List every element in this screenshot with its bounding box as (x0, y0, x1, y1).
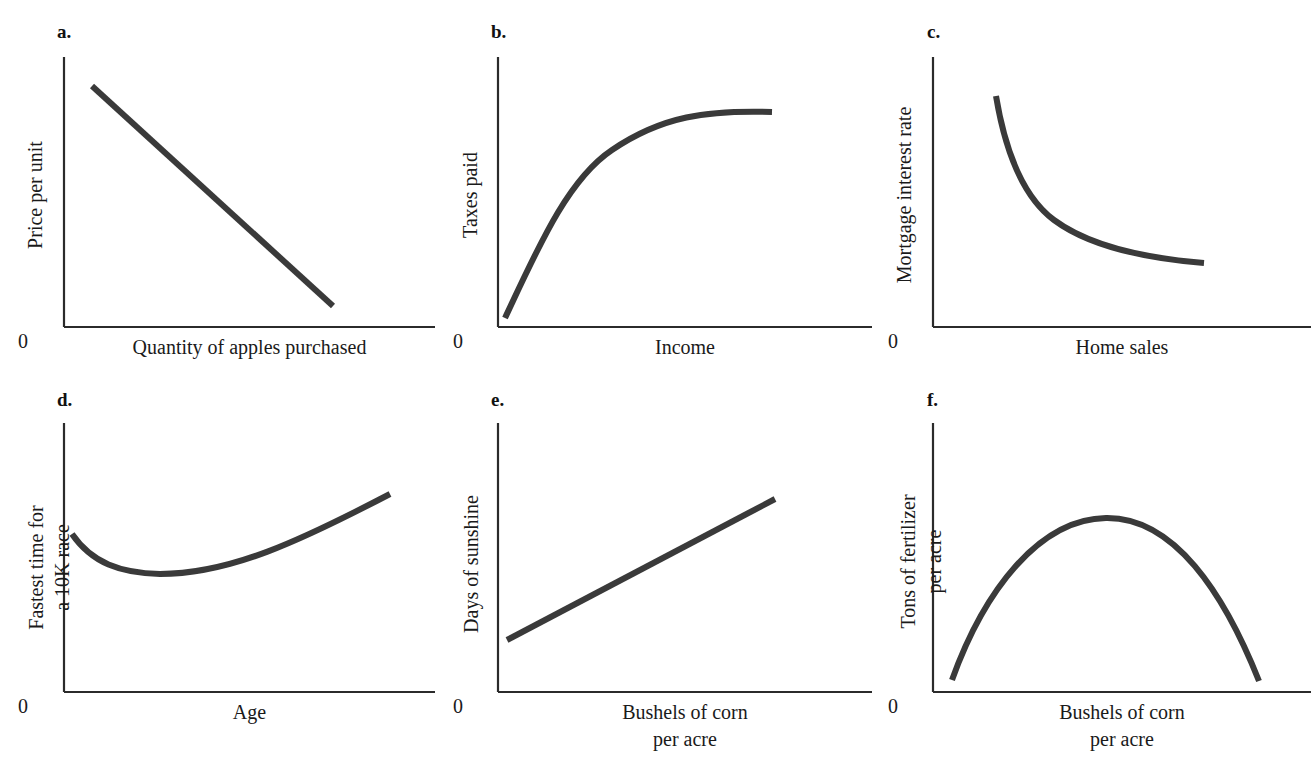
y-axis-label-c: Mortgage interest rate (891, 81, 917, 309)
data-series-curve (72, 494, 390, 574)
figure-canvas: a. 0 Quantity of apples purchased Price … (0, 0, 1312, 762)
x-axis-label-e-line2: per acre (498, 726, 872, 753)
origin-label-a: 0 (18, 330, 28, 353)
y-axis-label-d-line1: Fastest time for (24, 458, 49, 678)
origin-label-f: 0 (888, 695, 898, 718)
panel-letter-a: a. (57, 21, 71, 43)
data-series-curve (507, 499, 775, 640)
y-axis-label-a: Price per unit (22, 100, 48, 290)
origin-label-d: 0 (18, 695, 28, 718)
panel-f: f. 0 Bushels of corn per acre Tons of fe… (874, 381, 1311, 762)
x-axis-label-d: Age (64, 699, 435, 726)
origin-label-e: 0 (453, 695, 463, 718)
y-axis-label-f-line2: per acre (922, 452, 947, 672)
panel-b: b. 0 Income Taxes paid (437, 0, 874, 381)
panel-a-plot (0, 0, 437, 381)
data-series-curve (996, 96, 1204, 263)
y-axis-label-b: Taxes paid (457, 105, 483, 285)
panel-letter-e: e. (491, 389, 504, 411)
panel-letter-f: f. (927, 389, 938, 411)
panel-e: e. 0 Bushels of corn per acre Days of su… (437, 381, 874, 762)
panel-b-plot (437, 0, 874, 381)
data-series-curve (505, 112, 772, 318)
origin-label-b: 0 (453, 330, 463, 353)
panel-letter-d: d. (57, 389, 72, 411)
panel-a: a. 0 Quantity of apples purchased Price … (0, 0, 437, 381)
x-axis-label-c: Home sales (933, 334, 1311, 361)
panel-c-plot (874, 0, 1311, 381)
y-axis-label-e: Days of sunshine (458, 464, 484, 664)
x-axis-label-b: Income (498, 334, 872, 361)
x-axis-label-a: Quantity of apples purchased (64, 334, 435, 361)
panel-letter-c: c. (927, 21, 940, 43)
x-axis-label-f-line2: per acre (933, 726, 1311, 753)
origin-label-c: 0 (888, 330, 898, 353)
panel-d: d. 0 Age Fastest time for a 10K race (0, 381, 437, 762)
panel-letter-b: b. (491, 21, 506, 43)
y-axis-label-f-line1: Tons of fertilizer (896, 452, 921, 672)
y-axis-label-d-line2: a 10K race (50, 458, 75, 678)
data-series-curve (952, 518, 1259, 681)
panel-c: c. 0 Home sales Mortgage interest rate (874, 0, 1311, 381)
data-series-curve (92, 86, 333, 306)
x-axis-label-e-line1: Bushels of corn (498, 699, 872, 726)
x-axis-label-f-line1: Bushels of corn (933, 699, 1311, 726)
